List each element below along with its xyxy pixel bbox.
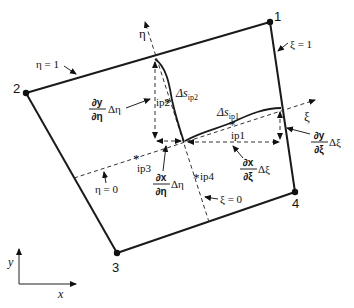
node-3 (114, 250, 120, 256)
edge-bottom (117, 192, 295, 253)
svg-text:∂η: ∂η (155, 186, 166, 197)
nodes: 1 2 3 4 (13, 9, 299, 275)
xi-one-label: ξ = 1 (290, 38, 312, 51)
svg-text:Δξ: Δξ (258, 163, 270, 176)
xi-axis-label: ξ (304, 109, 310, 124)
node-4 (292, 189, 298, 195)
edge-left (26, 93, 117, 253)
ds-ip1-label: Δsip1 (216, 105, 239, 121)
dy-deta-leader (126, 99, 150, 108)
svg-text:∂x: ∂x (243, 157, 254, 168)
ip4-marker: * (193, 170, 200, 185)
ip4-label: ip4 (200, 170, 215, 182)
dx-dxi-leader (233, 146, 243, 158)
ip2-label: ip2 (156, 96, 170, 108)
svg-text:Δξ: Δξ (329, 136, 341, 149)
dx-deta-leader (163, 146, 166, 171)
ip3-label: ip3 (137, 162, 152, 174)
svg-text:Δη: Δη (171, 178, 184, 190)
xi-one-leader (278, 43, 288, 51)
eta-zero-leader (104, 172, 106, 183)
ip1-label: ip1 (231, 129, 245, 141)
svg-text:∂ξ: ∂ξ (314, 144, 324, 156)
svg-text:∂η: ∂η (91, 111, 102, 122)
element-boundary (26, 22, 295, 253)
dy-dxi-label: ∂y ∂ξ Δξ (287, 128, 341, 156)
dy-dxi-leader (287, 128, 310, 134)
node-2-label: 2 (13, 81, 20, 96)
xi-zero-leader (205, 197, 218, 199)
svg-text:Δη: Δη (108, 103, 121, 115)
global-x-label: x (57, 287, 64, 301)
derivative-dimensions (155, 62, 280, 142)
xi-zero-label: ξ = 0 (220, 193, 243, 206)
node-2 (23, 90, 29, 96)
global-axes: y x (7, 249, 76, 301)
dx-deta-label: ∂x ∂η Δη (153, 146, 184, 197)
node-4-label: 4 (292, 196, 299, 211)
node-3-label: 3 (112, 260, 119, 275)
svg-text:∂y: ∂y (314, 130, 325, 141)
eta-one-leader (64, 66, 76, 74)
global-y-label: y (7, 255, 14, 269)
svg-text:∂x: ∂x (156, 172, 167, 183)
svg-text:∂y: ∂y (92, 97, 103, 108)
isoparametric-element-diagram: 1 2 3 4 η ξ η = 1 ξ = 1 η = 0 ξ = 0 Δsip… (0, 0, 354, 308)
dy-deta-label: ∂y ∂η Δη (89, 97, 150, 122)
node-1 (267, 19, 273, 25)
node-1-label: 1 (274, 9, 281, 24)
svg-text:∂ξ: ∂ξ (243, 171, 253, 183)
eta-zero-label: η = 0 (95, 183, 118, 195)
eta-one-label: η = 1 (36, 58, 59, 70)
ds-ip2-label: Δsip2 (175, 86, 198, 102)
arc-length-curves: Δsip2 Δsip1 (155, 59, 281, 142)
eta-axis-label: η (139, 26, 146, 41)
dx-dxi-label: ∂x ∂ξ Δξ (233, 146, 270, 183)
